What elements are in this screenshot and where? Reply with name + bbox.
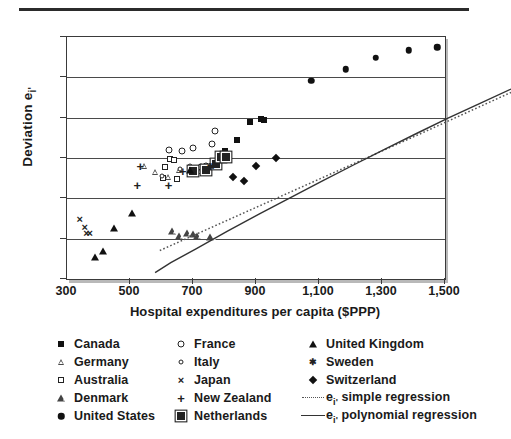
legend-label-subscript: i' xyxy=(333,414,338,424)
open-triangle-small-marker-icon xyxy=(58,359,64,365)
x-tick-mark xyxy=(192,278,193,284)
legend-marker: × xyxy=(168,371,194,389)
legend-label-text: polynomial regression xyxy=(341,408,476,422)
legend-marker xyxy=(168,407,194,425)
legend-label: Denmark xyxy=(74,391,128,405)
data-point: × xyxy=(76,214,82,225)
legend-marker xyxy=(48,335,74,353)
regression-curves xyxy=(133,73,511,315)
y-axis-title-text: Deviation e xyxy=(20,93,35,167)
x-tick-label: 1,100 xyxy=(302,284,333,298)
legend-marker xyxy=(168,353,194,371)
legend-marker xyxy=(300,371,326,389)
regression-line xyxy=(155,89,511,273)
legend-marker: + xyxy=(168,389,194,407)
x-tick-mark xyxy=(444,278,445,284)
legend-item[interactable]: France xyxy=(168,335,272,353)
data-point xyxy=(91,253,99,260)
legend-marker xyxy=(48,371,74,389)
data-point xyxy=(434,44,441,51)
legend-label: Netherlands xyxy=(194,409,267,423)
plot-wrapper: Deviation ei' ×××××++++✱ 3210–1–2–3 3005… xyxy=(0,0,483,320)
x-tick-mark xyxy=(381,278,382,284)
open-square-marker-icon xyxy=(58,377,64,383)
legend-item[interactable]: Australia xyxy=(48,371,155,389)
legend-label: Australia xyxy=(74,373,128,387)
data-point xyxy=(110,225,118,232)
filled-square-marker-icon xyxy=(58,341,64,347)
legend-label: Germany xyxy=(74,355,129,369)
legend-item[interactable]: Canada xyxy=(48,335,155,353)
x-tick-label: 1,300 xyxy=(365,284,396,298)
legend-label: Switzerland xyxy=(326,373,397,387)
data-point: × xyxy=(86,228,92,239)
legend-marker xyxy=(168,335,194,353)
plus-marker-icon: + xyxy=(177,392,185,405)
filled-diamond-marker-icon xyxy=(309,376,317,384)
legend-label: United States xyxy=(74,409,155,423)
legend-item[interactable]: Netherlands xyxy=(168,407,272,425)
legend-item[interactable]: ✱Sweden xyxy=(300,353,477,371)
solid-line-icon xyxy=(301,415,325,416)
y-tick-mark xyxy=(60,157,66,158)
legend-marker xyxy=(300,335,326,353)
legend-label: Italy xyxy=(194,355,220,369)
open-circle-marker-icon xyxy=(178,341,185,348)
x-tick-mark xyxy=(318,278,319,284)
x-axis-title: Hospital expenditures per capita ($PPP) xyxy=(66,304,444,319)
regression-line xyxy=(160,92,511,250)
x-tick-label: 500 xyxy=(119,284,140,298)
x-tick-mark xyxy=(129,278,130,284)
legend-marker xyxy=(48,353,74,371)
open-circle-small-marker-icon xyxy=(179,360,184,365)
legend-label-prefix: e xyxy=(326,408,333,422)
data-point xyxy=(372,54,379,61)
data-point: × xyxy=(83,228,89,239)
open-triangle-marker-icon xyxy=(57,395,65,402)
bordered-square-marker-icon xyxy=(177,412,185,420)
legend-label: United Kingdom xyxy=(326,337,424,351)
legend-label-text: simple regression xyxy=(341,390,450,404)
filled-circle-marker-icon xyxy=(58,413,65,420)
legend-item[interactable]: ei' polynomial regression xyxy=(300,407,477,425)
asterisk-marker-icon: ✱ xyxy=(309,358,317,367)
legend-item[interactable]: ×Japan xyxy=(168,371,272,389)
y-tick-mark xyxy=(60,36,66,37)
legend-item[interactable]: +New Zealand xyxy=(168,389,272,407)
legend-marker: ✱ xyxy=(300,353,326,371)
data-point xyxy=(343,66,350,73)
legend-label: New Zealand xyxy=(194,391,272,405)
legend-column: FranceItaly×Japan+New ZealandNetherlands xyxy=(168,335,272,425)
legend-item[interactable]: ei' simple regression xyxy=(300,389,477,407)
legend-label: Canada xyxy=(74,337,120,351)
legend-item[interactable]: United States xyxy=(48,407,155,425)
legend-label: ei' simple regression xyxy=(326,390,450,407)
y-tick-mark xyxy=(60,197,66,198)
x-tick-mark xyxy=(255,278,256,284)
legend-label: ei' polynomial regression xyxy=(326,408,477,425)
legend-item[interactable]: Italy xyxy=(168,353,272,371)
legend-label: France xyxy=(194,337,236,351)
legend-marker xyxy=(300,389,326,407)
x-tick-label: 700 xyxy=(182,284,203,298)
y-tick-mark xyxy=(60,238,66,239)
legend-label-prefix: e xyxy=(326,390,333,404)
data-point xyxy=(406,47,413,54)
filled-triangle-marker-icon xyxy=(309,341,317,348)
x-tick-label: 1,500 xyxy=(428,284,459,298)
legend-marker xyxy=(300,407,326,425)
legend-item[interactable]: Germany xyxy=(48,353,155,371)
data-point: × xyxy=(81,222,87,233)
y-tick-mark xyxy=(60,278,66,279)
y-axis-title: Deviation ei' xyxy=(20,62,38,192)
legend-column: CanadaGermanyAustraliaDenmarkUnited Stat… xyxy=(48,335,155,425)
legend-item[interactable]: United Kingdom xyxy=(300,335,477,353)
x-tick-label: 900 xyxy=(245,284,266,298)
legend-item[interactable]: Denmark xyxy=(48,389,155,407)
legend-item[interactable]: Switzerland xyxy=(300,371,477,389)
y-axis-title-subscript: i' xyxy=(27,87,38,93)
y-tick-mark xyxy=(60,117,66,118)
y-tick-mark xyxy=(60,76,66,77)
x-marker-icon: × xyxy=(178,375,184,386)
